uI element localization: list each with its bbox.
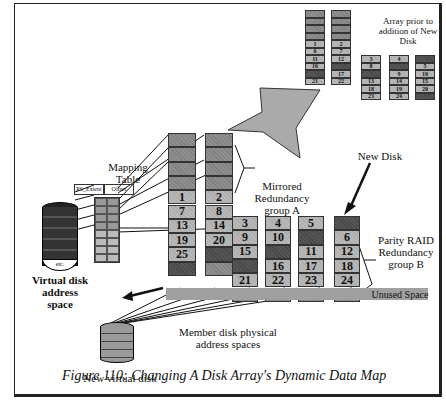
data-block-11: 11 bbox=[298, 245, 324, 259]
mapping-cell bbox=[95, 214, 107, 222]
data-block-22: 22 bbox=[265, 273, 291, 287]
block-cell bbox=[205, 147, 233, 161]
data-block-18: 18 bbox=[334, 259, 360, 273]
data-block-1: 1 bbox=[168, 190, 196, 204]
data-block-24: 24 bbox=[334, 273, 360, 287]
block-cell bbox=[168, 133, 196, 147]
mapping-cell bbox=[95, 222, 107, 230]
mapping-cell bbox=[95, 198, 107, 206]
mapping-cell bbox=[95, 246, 107, 254]
data-block-3: 3 bbox=[232, 216, 258, 230]
data-block-6: 6 bbox=[334, 230, 360, 244]
parity-group-label: Parity RAID Redundancy group B bbox=[374, 234, 438, 270]
data-block-13: 13 bbox=[168, 219, 196, 233]
ps-extent-header: PS_Extent bbox=[74, 184, 104, 195]
virtual-disk-icon: etc. bbox=[42, 202, 76, 274]
mapping-cell bbox=[107, 198, 119, 206]
mapping-cell bbox=[107, 246, 119, 254]
new-disk-label: New Disk bbox=[350, 150, 410, 162]
mapping-cell bbox=[95, 206, 107, 214]
data-block-8: 8 bbox=[205, 205, 233, 219]
block-cell bbox=[298, 230, 324, 244]
mapping-cell bbox=[107, 254, 119, 262]
block-cell bbox=[168, 176, 196, 190]
new-virtual-disk-arrow-icon bbox=[122, 291, 133, 301]
block-cell bbox=[168, 162, 196, 176]
block-cell bbox=[205, 262, 233, 276]
mapping-cell bbox=[107, 222, 119, 230]
block-cell bbox=[265, 245, 291, 259]
data-block-21: 21 bbox=[232, 273, 258, 287]
data-block-25: 25 bbox=[168, 247, 196, 261]
new-disk-arrow-icon bbox=[350, 163, 370, 208]
block-cell bbox=[205, 176, 233, 190]
mapping-cell bbox=[95, 238, 107, 246]
virtual-disk-label: Virtual disk address space bbox=[30, 274, 90, 310]
block-cell bbox=[205, 162, 233, 176]
block-cell bbox=[232, 259, 258, 273]
mirrored-group-label: Mirrored Redundancy group A bbox=[242, 180, 322, 216]
mapping-cell bbox=[107, 238, 119, 246]
member-disk-label: Member disk physical address spaces bbox=[178, 326, 278, 350]
data-block-9: 9 bbox=[232, 230, 258, 244]
data-block-10: 10 bbox=[265, 230, 291, 244]
data-block-4: 4 bbox=[265, 216, 291, 230]
mapping-cell bbox=[95, 230, 107, 238]
block-cell bbox=[205, 133, 233, 147]
data-block-15: 15 bbox=[232, 245, 258, 259]
mapping-table bbox=[94, 197, 120, 263]
block-cell bbox=[205, 247, 233, 261]
data-block-5: 5 bbox=[298, 216, 324, 230]
data-block-12: 12 bbox=[334, 245, 360, 259]
unused-space-label: Unused Space bbox=[370, 289, 430, 301]
transition-arrow-icon bbox=[228, 88, 320, 158]
new-virtual-disk-icon bbox=[100, 322, 132, 366]
mapping-table-label: Mapping Table bbox=[108, 161, 148, 185]
data-block-2: 2 bbox=[205, 190, 233, 204]
data-block-17: 17 bbox=[298, 259, 324, 273]
data-block-7: 7 bbox=[168, 205, 196, 219]
mapping-cell bbox=[107, 230, 119, 238]
data-block-23: 23 bbox=[298, 273, 324, 287]
block-cell bbox=[168, 147, 196, 161]
mapping-cell bbox=[107, 206, 119, 214]
offset-header: Offset bbox=[104, 184, 134, 195]
data-block-19: 19 bbox=[168, 233, 196, 247]
data-block-20: 20 bbox=[205, 233, 233, 247]
data-block-14: 14 bbox=[205, 219, 233, 233]
mapping-cell bbox=[107, 214, 119, 222]
mapping-cell bbox=[95, 254, 107, 262]
figure-caption: Figure 110: Changing A Disk Array's Dyna… bbox=[62, 368, 386, 384]
block-cell bbox=[168, 262, 196, 276]
data-block-16: 16 bbox=[265, 259, 291, 273]
block-cell bbox=[334, 216, 360, 230]
